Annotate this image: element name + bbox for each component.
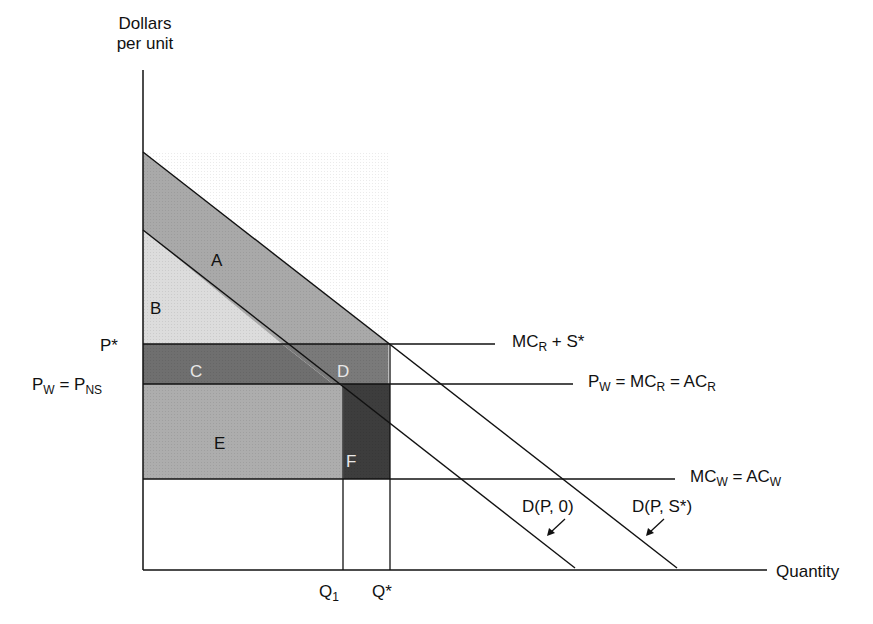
- region-f-label: F: [346, 453, 356, 470]
- region-b-label: B: [150, 300, 161, 317]
- y-axis-label: Dollars per unit: [105, 14, 185, 54]
- region-a-label: A: [211, 252, 222, 269]
- q1-label: Q1: [319, 583, 339, 603]
- demand-zero-label: D(P, 0): [522, 498, 574, 515]
- qstar-label: Q*: [372, 583, 392, 600]
- p-star-label: P*: [100, 337, 118, 354]
- region-e-label: E: [214, 435, 225, 452]
- pw-mcr-acr-label: PW = MCR = ACR: [588, 373, 716, 393]
- region-d-label: D: [337, 363, 349, 380]
- arrow-d0-icon: [547, 519, 565, 536]
- y-axis-label-line2: per unit: [105, 34, 185, 54]
- mcr-plus-s-label: MCR + S*: [512, 333, 584, 353]
- x-axis-label: Quantity: [776, 563, 839, 580]
- region-c-label: C: [190, 363, 202, 380]
- mcw-acw-label: MCW = ACW: [690, 468, 781, 488]
- arrow-ds-icon: [646, 519, 664, 536]
- demand-s-star-label: D(P, S*): [632, 498, 692, 515]
- y-axis-label-line1: Dollars: [105, 14, 185, 34]
- economics-diagram: [0, 0, 873, 624]
- pw-pns-label: PW = PNS: [32, 376, 102, 396]
